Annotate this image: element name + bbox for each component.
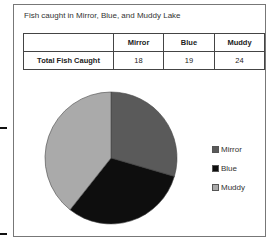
swatch-blue — [212, 165, 219, 172]
row-label: Total Fish Caught — [24, 52, 114, 70]
header-blank — [24, 34, 114, 52]
header-blue: Blue — [164, 34, 215, 52]
pie-chart — [44, 91, 178, 225]
legend-item-blue: Blue — [212, 159, 245, 178]
data-table: Mirror Blue Muddy Total Fish Caught 18 1… — [23, 33, 265, 70]
value-muddy: 24 — [215, 52, 265, 70]
legend-item-mirror: Mirror — [212, 140, 245, 159]
legend-label-muddy: Muddy — [221, 183, 245, 192]
value-blue: 19 — [164, 52, 215, 70]
margin-mark-top — [0, 127, 7, 129]
table-row: Total Fish Caught 18 19 24 — [24, 52, 265, 70]
header-mirror: Mirror — [114, 34, 164, 52]
swatch-muddy — [212, 184, 219, 191]
header-muddy: Muddy — [215, 34, 265, 52]
legend-item-muddy: Muddy — [212, 178, 245, 197]
chart-title: Fish caught in Mirror, Blue, and Muddy L… — [24, 11, 181, 20]
legend-label-mirror: Mirror — [221, 145, 242, 154]
value-mirror: 18 — [114, 52, 164, 70]
margin-mark-bottom — [0, 233, 7, 235]
legend: Mirror Blue Muddy — [212, 140, 245, 197]
swatch-mirror — [212, 146, 219, 153]
legend-label-blue: Blue — [221, 164, 237, 173]
